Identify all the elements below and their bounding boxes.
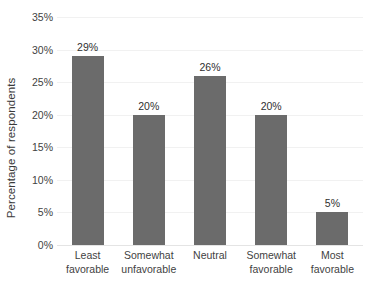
bar-chart: Percentage of respondents 0%5%10%15%20%2… — [0, 0, 375, 296]
bar-value-label: 5% — [325, 197, 340, 209]
bar-value-label: 20% — [138, 100, 159, 112]
bar[interactable] — [133, 115, 165, 245]
bar-slot: 26% — [179, 17, 240, 245]
x-axis-tick-label-line: Least — [57, 248, 118, 262]
bar-value-label: 26% — [199, 61, 220, 73]
y-axis-tick-label: 0% — [20, 239, 53, 251]
x-axis-tick-label: Leastfavorable — [57, 248, 118, 276]
x-axis-tick-label-line: favorable — [241, 262, 302, 276]
bar[interactable] — [72, 56, 104, 245]
x-axis-tick-label-line: Neutral — [179, 248, 240, 262]
bar-slot: 20% — [118, 17, 179, 245]
bar-slot: 29% — [57, 17, 118, 245]
y-axis-tick-label: 25% — [20, 76, 53, 88]
x-axis-tick-label-line: Somewhat — [118, 248, 179, 262]
x-axis-tick-label: Somewhatunfavorable — [118, 248, 179, 276]
x-axis-tick-label-line: favorable — [302, 262, 363, 276]
bar-value-label: 20% — [261, 100, 282, 112]
x-axis-tick-label-line: Most — [302, 248, 363, 262]
y-axis-tick-label: 15% — [20, 141, 53, 153]
bars-group: 29%20%26%20%5% — [57, 17, 363, 245]
x-axis-tick-label: Mostfavorable — [302, 248, 363, 276]
y-axis-tick-labels: 0%5%10%15%20%25%30%35% — [20, 0, 53, 296]
x-axis-tick-labels: LeastfavorableSomewhatunfavorableNeutral… — [57, 248, 363, 294]
x-axis-tick-label: Somewhatfavorable — [241, 248, 302, 276]
x-axis-tick-label-line: favorable — [57, 262, 118, 276]
bar[interactable] — [316, 212, 348, 245]
y-axis-tick-label: 30% — [20, 44, 53, 56]
bar-slot: 20% — [241, 17, 302, 245]
bar-value-label: 29% — [77, 41, 98, 53]
y-axis-tick-label: 20% — [20, 109, 53, 121]
y-axis-tick-label: 10% — [20, 174, 53, 186]
y-axis-tick-label: 35% — [20, 11, 53, 23]
x-axis-tick-label-line: unfavorable — [118, 262, 179, 276]
bar[interactable] — [194, 76, 226, 245]
y-axis-title: Percentage of respondents — [0, 0, 22, 296]
x-axis-tick-label: Neutral — [179, 248, 240, 262]
bar[interactable] — [255, 115, 287, 245]
bar-slot: 5% — [302, 17, 363, 245]
axis-baseline — [57, 245, 363, 246]
plot-area: 29%20%26%20%5% — [57, 17, 363, 245]
y-axis-tick-label: 5% — [20, 206, 53, 218]
x-axis-tick-label-line: Somewhat — [241, 248, 302, 262]
